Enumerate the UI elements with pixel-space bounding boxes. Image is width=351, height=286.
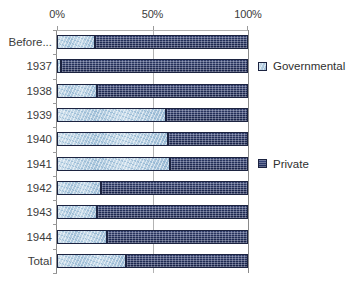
legend-swatch-governmental (258, 62, 267, 71)
category-label: 1941 (0, 158, 52, 170)
y-axis-tick (53, 273, 57, 274)
category-label: Total (0, 255, 52, 267)
category-label: 1943 (0, 206, 52, 218)
legend-label: Private (273, 158, 309, 170)
category-label: Before... (0, 36, 52, 48)
category-label: 1942 (0, 182, 52, 194)
category-label: 1937 (0, 60, 52, 72)
legend-label: Governmental (273, 60, 345, 72)
legend-entry[interactable]: Governmental (258, 60, 345, 72)
category-label: 1938 (0, 85, 52, 97)
x-axis-tick-label: 50% (142, 8, 163, 20)
category-label: 1940 (0, 133, 52, 145)
category-label: 1944 (0, 231, 52, 243)
stacked-bar-chart: 0%50%100% Before...193719381939194019411… (0, 0, 351, 286)
legend-entry[interactable]: Private (258, 158, 309, 170)
x-axis-tick-label: 0% (49, 8, 65, 20)
category-label: 1939 (0, 109, 52, 121)
x-axis-tick-labels: 0%50%100% (0, 8, 351, 24)
legend-swatch-private (258, 159, 267, 168)
chart-legend: GovernmentalPrivate (258, 30, 351, 273)
x-axis-tick-label: 100% (234, 8, 261, 20)
